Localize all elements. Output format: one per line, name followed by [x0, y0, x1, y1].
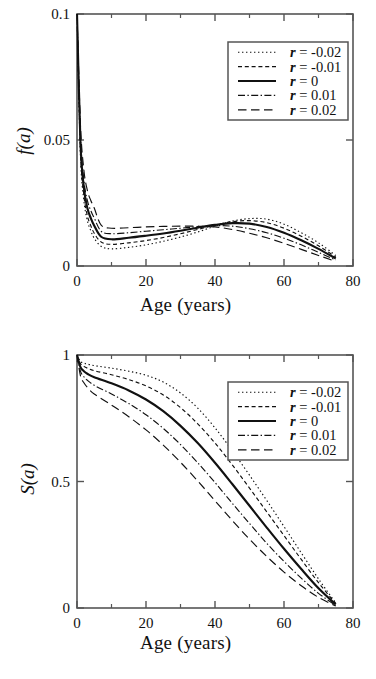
y-axis-label-top: f(a) — [13, 127, 35, 154]
age-density-plot: 02040608000.050.1r = -0.02r = -0.01r = 0… — [0, 0, 376, 340]
x-tick-label: 40 — [208, 615, 223, 631]
x-tick-label: 60 — [277, 615, 292, 631]
legend-label: r = 0.02 — [290, 102, 336, 118]
x-axis-label-top: Age (years) — [140, 294, 231, 316]
x-tick-label: 20 — [139, 615, 154, 631]
x-tick-label: 0 — [73, 615, 81, 631]
x-tick-label: 80 — [346, 615, 361, 631]
panel-survivorship: 02040608000.51r = -0.02r = -0.01r = 0r =… — [0, 340, 376, 679]
y-axis-label-top-text: f(a) — [13, 127, 34, 154]
x-tick-label: 40 — [208, 273, 223, 289]
x-tick-label: 0 — [73, 273, 81, 289]
y-tick-label: 0 — [63, 258, 71, 274]
survivorship-plot: 02040608000.51r = -0.02r = -0.01r = 0r =… — [0, 340, 376, 679]
y-axis-label-bottom: S(a) — [17, 463, 39, 495]
legend-label: r = 0.02 — [290, 442, 336, 458]
figure-container: 02040608000.050.1r = -0.02r = -0.01r = 0… — [0, 0, 376, 679]
legend: r = -0.02r = -0.01r = 0r = 0.01r = 0.02 — [228, 42, 348, 120]
y-tick-label: 1 — [63, 347, 71, 363]
y-tick-label: 0.5 — [51, 474, 70, 490]
panel-age-density: 02040608000.050.1r = -0.02r = -0.01r = 0… — [0, 0, 376, 340]
x-tick-label: 80 — [346, 273, 361, 289]
legend: r = -0.02r = -0.01r = 0r = 0.01r = 0.02 — [228, 382, 348, 460]
x-axis-label-bottom: Age (years) — [140, 632, 231, 654]
y-tick-label: 0.1 — [51, 6, 70, 22]
x-tick-label: 20 — [139, 273, 154, 289]
y-tick-label: 0 — [63, 600, 71, 616]
x-tick-label: 60 — [277, 273, 292, 289]
y-axis-label-bottom-text: S(a) — [17, 463, 38, 495]
y-tick-label: 0.05 — [44, 132, 70, 148]
